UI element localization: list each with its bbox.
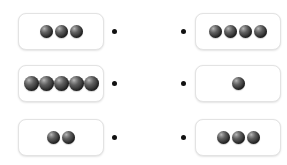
sphere-icon <box>209 25 222 38</box>
gap-spacer <box>104 31 112 32</box>
connector-dot-icon[interactable] <box>112 29 117 34</box>
match-row-right-group <box>181 11 281 51</box>
sphere-icon <box>254 25 267 38</box>
sphere-icon <box>54 76 69 91</box>
sphere-icon <box>47 131 60 144</box>
sphere-icon <box>232 77 245 90</box>
sphere-icon <box>69 76 84 91</box>
gap-spacer <box>104 137 112 138</box>
match-row-right-group <box>181 117 281 157</box>
match-row-right-group <box>181 63 281 103</box>
sphere-icon <box>24 76 39 91</box>
match-row-left-group <box>18 63 117 103</box>
connector-dot-icon[interactable] <box>112 135 117 140</box>
matching-worksheet <box>0 0 287 165</box>
match-row-left-group <box>18 117 117 157</box>
sphere-icon <box>40 25 53 38</box>
ball-box-right[interactable] <box>195 119 281 156</box>
sphere-icon <box>232 131 245 144</box>
sphere-icon <box>70 25 83 38</box>
ball-box-left[interactable] <box>18 65 104 102</box>
sphere-icon <box>55 25 68 38</box>
ball-box-left[interactable] <box>18 13 104 50</box>
ball-box-right[interactable] <box>195 13 281 50</box>
match-row-left-group <box>18 11 117 51</box>
ball-box-right[interactable] <box>195 65 281 102</box>
gap-spacer <box>186 31 195 32</box>
sphere-icon <box>84 76 99 91</box>
sphere-icon <box>39 76 54 91</box>
ball-box-left[interactable] <box>18 119 104 156</box>
sphere-icon <box>239 25 252 38</box>
sphere-icon <box>217 131 230 144</box>
gap-spacer <box>186 83 195 84</box>
gap-spacer <box>186 137 195 138</box>
match-row <box>0 63 287 103</box>
connector-dot-icon[interactable] <box>112 81 117 86</box>
sphere-icon <box>247 131 260 144</box>
sphere-icon <box>224 25 237 38</box>
match-row <box>0 117 287 157</box>
sphere-icon <box>62 131 75 144</box>
gap-spacer <box>104 83 112 84</box>
match-row <box>0 11 287 51</box>
